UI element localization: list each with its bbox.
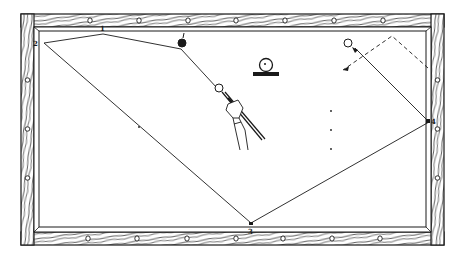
diamond-sight <box>25 127 30 131</box>
diamond-sight <box>86 236 90 241</box>
diamond-sight <box>378 236 382 241</box>
diamond-sight <box>435 78 440 82</box>
diamond-sight <box>381 18 385 23</box>
cushion-label-4: 4 <box>431 117 436 126</box>
billiard-table-diagram: 1234 <box>0 0 472 259</box>
cushion-label-3: 3 <box>248 227 253 236</box>
diamond-sight <box>88 18 92 23</box>
contact-marker <box>426 119 430 123</box>
diamond-sight <box>25 78 30 82</box>
diamond-sight <box>234 18 238 23</box>
diamond-sight <box>435 176 440 180</box>
diamond-sight <box>330 236 334 241</box>
cushion-label-1: 1 <box>100 24 105 33</box>
target-ball <box>344 39 352 47</box>
diamond-sight <box>135 236 139 241</box>
diamond-sight <box>283 18 287 23</box>
diamond-sight <box>234 236 238 241</box>
diamond-sight <box>435 127 440 131</box>
cue-ball <box>215 84 223 92</box>
table <box>21 14 444 245</box>
table-spot <box>330 110 332 112</box>
diagram-canvas: 1234 <box>0 0 472 259</box>
diamond-sight <box>25 176 30 180</box>
diamond-sight <box>137 18 141 23</box>
object-ball-black <box>178 39 186 47</box>
diamond-sight <box>186 18 190 23</box>
diamond-sight <box>281 236 285 241</box>
table-spot <box>330 148 332 150</box>
diamond-sight <box>332 18 336 23</box>
table-spot <box>330 129 332 131</box>
contact-marker <box>249 222 253 225</box>
table-spot <box>138 126 140 128</box>
diamond-sight <box>185 236 189 241</box>
cushion-label-2: 2 <box>33 39 38 48</box>
